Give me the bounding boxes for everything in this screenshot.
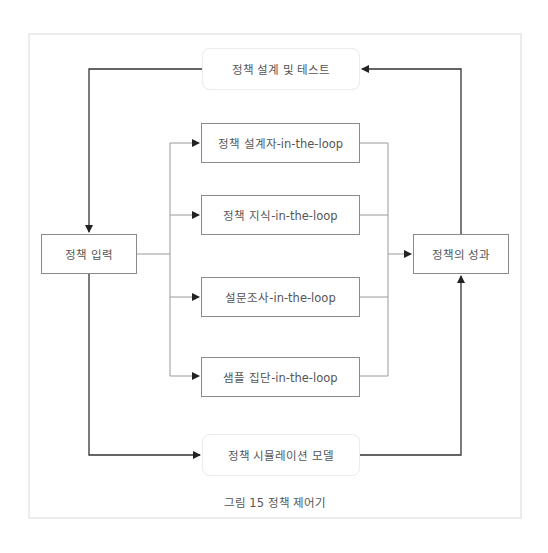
node-label: 정책 설계 및 테스트: [232, 61, 331, 77]
node-policy-design-test: 정책 설계 및 테스트: [202, 48, 360, 90]
node-label: 정책 입력: [65, 246, 113, 262]
node-designer-in-the-loop: 정책 설계자-in-the-loop: [201, 123, 360, 163]
figure-caption: 그림 15 정책 제어기: [28, 494, 522, 510]
node-knowledge-in-the-loop: 정책 지식-in-the-loop: [201, 195, 360, 235]
node-label: 정책의 성과: [432, 246, 491, 262]
node-label: 정책 설계자-in-the-loop: [218, 135, 343, 151]
node-survey-in-the-loop: 설문조사-in-the-loop: [201, 277, 360, 317]
node-policy-outcome: 정책의 성과: [413, 234, 509, 274]
node-label: 샘플 집단-in-the-loop: [223, 369, 337, 385]
node-label: 정책 시뮬레이션 모델: [228, 447, 334, 463]
node-label: 정책 지식-in-the-loop: [223, 207, 337, 223]
node-policy-input: 정책 입력: [41, 234, 137, 274]
node-policy-simulation-model: 정책 시뮬레이션 모델: [202, 434, 360, 476]
node-label: 설문조사-in-the-loop: [225, 289, 335, 305]
node-sample-group-in-the-loop: 샘플 집단-in-the-loop: [201, 357, 360, 397]
